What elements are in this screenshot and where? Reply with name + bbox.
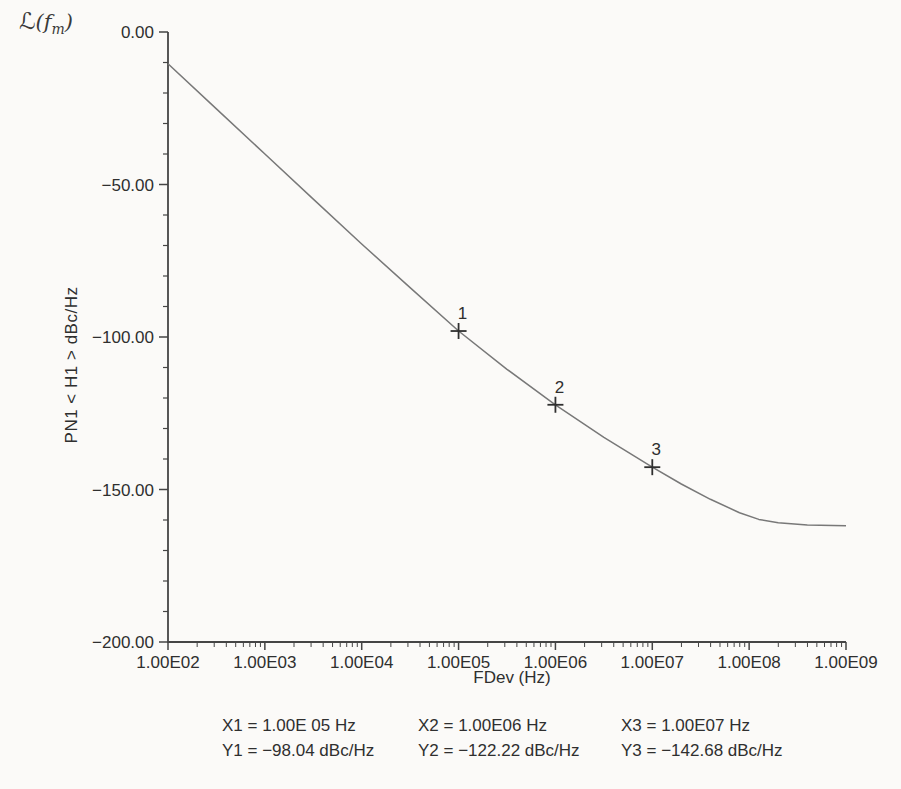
phase-noise-curve bbox=[168, 64, 846, 526]
x-tick-label: 1.00E04 bbox=[330, 653, 393, 672]
marker-3: 3 bbox=[644, 440, 661, 475]
y-tick-label: −200.00 bbox=[92, 633, 154, 652]
marker-2: 2 bbox=[547, 378, 564, 413]
marker3-x-readout: X3 = 1.00E07 Hz bbox=[621, 716, 750, 736]
x-tick-label: 1.00E09 bbox=[814, 653, 877, 672]
marker2-y-readout: Y2 = −122.22 dBc/Hz bbox=[418, 741, 580, 761]
axes bbox=[168, 32, 846, 642]
x-tick-label: 1.00E07 bbox=[621, 653, 684, 672]
y-tick-label: −150.00 bbox=[92, 481, 154, 500]
marker3-y-readout: Y3 = −142.68 dBc/Hz bbox=[621, 741, 783, 761]
x-axis-label: FDev (Hz) bbox=[473, 668, 550, 688]
marker1-y-readout: Y1 = −98.04 dBc/Hz bbox=[222, 741, 374, 761]
marker-1: 1 bbox=[451, 304, 468, 339]
phase-noise-chart: 0.00−50.00−100.00−150.00−200.001.00E021.… bbox=[0, 0, 901, 789]
x-tick-label: 1.00E02 bbox=[136, 653, 199, 672]
marker1-x-readout: X1 = 1.00E 05 Hz bbox=[222, 716, 356, 736]
y-tick-label: −100.00 bbox=[92, 328, 154, 347]
marker-number-label: 1 bbox=[458, 304, 467, 323]
y-tick-label: 0.00 bbox=[121, 23, 154, 42]
marker-number-label: 2 bbox=[555, 378, 564, 397]
x-tick-label: 1.00E03 bbox=[233, 653, 296, 672]
marker-number-label: 3 bbox=[652, 440, 661, 459]
y-tick-label: −50.00 bbox=[102, 176, 154, 195]
phase-noise-figure: ℒ(fm) PN1 < H1 > dBc/Hz 0.00−50.00−100.0… bbox=[0, 0, 901, 789]
x-tick-label: 1.00E08 bbox=[717, 653, 780, 672]
marker2-x-readout: X2 = 1.00E06 Hz bbox=[418, 716, 547, 736]
